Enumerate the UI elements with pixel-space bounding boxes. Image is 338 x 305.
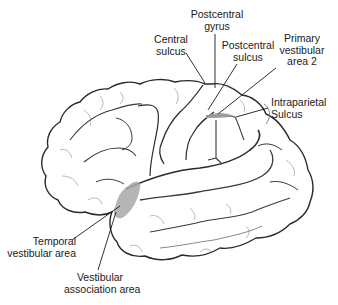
brain-diagram: Postcentral gyrus Central sulcus Postcen… <box>0 0 338 305</box>
label-postcentral-sulcus: Postcentral sulcus <box>219 40 277 63</box>
leader-vestibular-association-area <box>98 212 116 270</box>
label-primary-vestibular-area-2: Primary vestibular area 2 <box>272 33 332 68</box>
label-postcentral-gyrus: Postcentral gyrus <box>186 9 248 32</box>
label-intraparietal-sulcus: Intraparietal Sulcus <box>271 97 337 120</box>
label-central-sulcus: Central sulcus <box>146 34 196 57</box>
label-vestibular-association-area: Vestibular association area <box>64 272 136 295</box>
label-temporal-vestibular-area: Temporal vestibular area <box>6 236 76 259</box>
leader-central-sulcus <box>186 53 205 83</box>
